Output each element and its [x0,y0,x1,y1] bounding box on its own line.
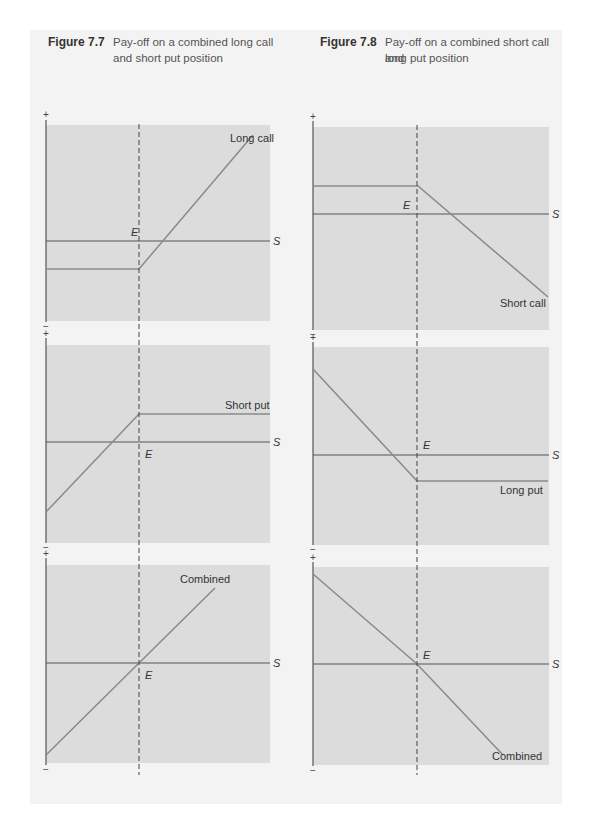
chart-combined-7-7: + − Combined E S [43,548,281,775]
strike-label: E [145,448,153,460]
strike-label: E [423,649,431,661]
plot-area [313,567,549,765]
plot-area [46,345,270,543]
minus-sign: − [43,764,49,775]
series-label: Long call [230,132,274,144]
minus-sign: − [310,765,316,776]
series-label: Combined [492,750,542,762]
x-axis-label: S [552,449,560,461]
chart-short-put: + − Short put E S [43,328,281,553]
series-label: Long put [500,484,543,496]
plot-area [46,565,270,763]
strike-label: E [403,199,411,211]
chart-long-call: + − Long call E S [43,109,281,332]
plot-area [313,347,549,545]
chart-combined-7-8: + − Combined E S [310,552,560,776]
series-label: Combined [180,573,230,585]
x-axis-label: S [273,657,281,669]
chart-long-put: + − Long put E S [310,332,560,555]
strike-label: E [145,669,153,681]
strike-label: E [131,226,139,238]
x-axis-label: S [273,235,281,247]
payoff-charts: + − Long call E S + − Short put E S + − … [0,0,591,835]
plus-sign: + [43,548,49,559]
series-label: Short call [500,297,546,309]
plus-sign: + [43,328,49,339]
plus-sign: + [310,332,316,343]
plus-sign: + [43,109,49,120]
x-axis-label: S [273,436,281,448]
x-axis-label: S [552,658,560,670]
plus-sign: + [310,552,316,563]
strike-label: E [423,439,431,451]
x-axis-label: S [552,208,560,220]
chart-short-call: + − Short call E S [310,111,560,340]
series-label: Short put [225,399,270,411]
plus-sign: + [310,111,316,122]
